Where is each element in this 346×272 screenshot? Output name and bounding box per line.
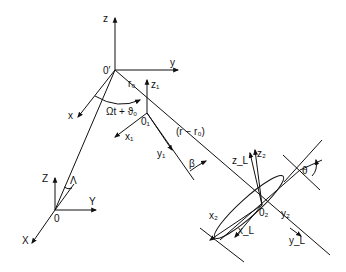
lambda-label: Λ [70,176,77,186]
y1-axis [147,113,172,150]
beta-label: β [189,159,195,169]
rotation-arc [95,96,140,104]
origin-o2-label: 0₂ [259,208,268,218]
x2-label: x₂ [209,211,218,221]
line-o-prime-to-o [55,70,115,210]
coordinate-frames-diagram: z y x 0′ r₀ Ωt + ϑ₀ z₁ 0₁ x₁ y₁ (r − r₀)… [0,0,346,272]
Z-label: Z [42,174,48,184]
theta-label: θ [302,166,308,176]
origin-o-prime-label: 0′ [103,66,110,76]
origin-o-label: 0 [54,214,60,224]
blade-axis-line [220,170,300,240]
diagram-lines [0,0,346,272]
z2-label: z₂ [257,149,266,159]
x1-label: x₁ [125,132,133,142]
Y-label: Y [89,197,96,207]
zL-label: z_L [232,156,248,166]
y-label: y [170,58,175,68]
rotation-angle-label: Ωt + ϑ₀ [106,107,137,117]
z-label: z [103,14,108,24]
X-axis [32,210,55,243]
r0-label: r₀ [128,79,135,89]
y1-label: y₁ [157,149,165,159]
X-label: X [22,236,29,246]
x-label: x [68,111,73,121]
origin-o1-label: 0₁ [141,117,150,127]
z1-label: z₁ [151,80,159,90]
y2-label: y₂ [281,209,290,219]
distance-label: (r − r₀) [176,127,205,137]
yL-label: y_L [289,236,305,246]
xL-label: x_L [238,226,254,236]
